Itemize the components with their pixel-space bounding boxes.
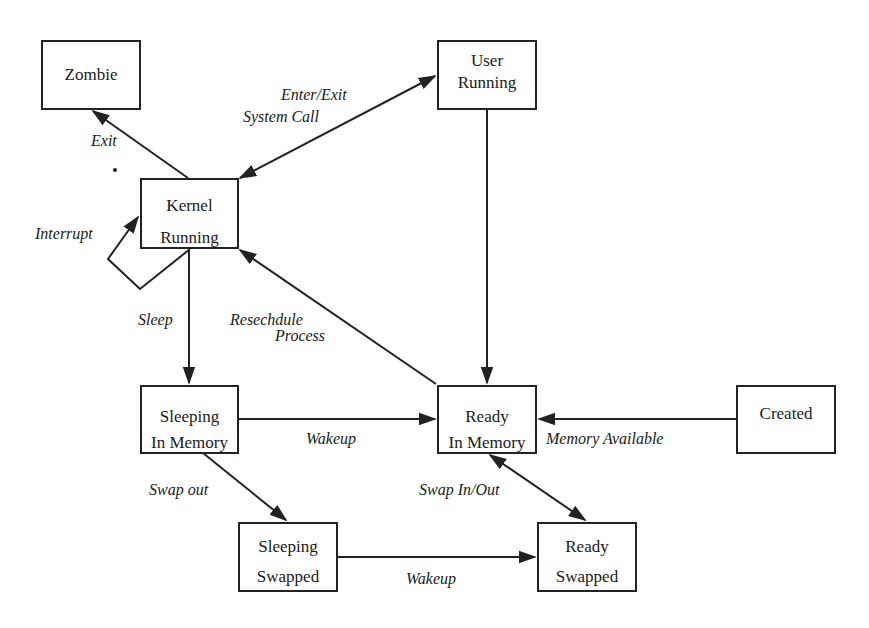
- state-zombie: Zombie: [41, 40, 141, 110]
- stray-dot: [113, 168, 117, 172]
- label-enter-exit: Enter/Exit: [281, 86, 347, 104]
- state-label-line2: Running: [160, 229, 219, 247]
- arrow-swap-out: [203, 453, 286, 520]
- state-label: Zombie: [65, 64, 118, 86]
- state-label: Created: [760, 403, 813, 425]
- state-kernel-running: Kernel Running: [140, 178, 239, 249]
- state-label-line2: In Memory: [449, 434, 526, 452]
- label-swap-in-out: Swap In/Out: [419, 481, 499, 499]
- label-sleep: Sleep: [138, 311, 173, 329]
- state-label-line2: Running: [458, 72, 517, 94]
- state-created: Created: [736, 385, 836, 454]
- state-label-line1: User: [471, 50, 503, 72]
- process-state-diagram: Zombie User Running Kernel Running Sleep…: [0, 0, 869, 628]
- state-label-line1: Ready: [565, 536, 608, 558]
- label-interrupt: Interrupt: [35, 225, 93, 243]
- label-memory-available: Memory Available: [546, 430, 663, 448]
- state-sleeping-in-memory: Sleeping In Memory: [140, 385, 239, 454]
- label-wakeup-swapped: Wakeup: [406, 570, 456, 588]
- state-label-line2: Swapped: [257, 566, 319, 588]
- state-label-line2: In Memory: [151, 434, 228, 452]
- label-process: Process: [275, 327, 325, 345]
- label-swap-out: Swap out: [149, 481, 208, 499]
- label-system-call: System Call: [243, 108, 319, 126]
- state-ready-in-memory: Ready In Memory: [437, 385, 537, 454]
- state-sleeping-swapped: Sleeping Swapped: [238, 522, 338, 592]
- state-label-line1: Kernel: [166, 195, 212, 217]
- label-wakeup-memory: Wakeup: [306, 430, 356, 448]
- state-label-line1: Ready: [465, 406, 508, 428]
- state-label-line2: Swapped: [556, 566, 618, 588]
- state-label-line1: Sleeping: [160, 406, 220, 428]
- label-exit: Exit: [91, 132, 117, 150]
- arrow-swap-in-out: [490, 455, 585, 520]
- state-user-running: User Running: [437, 40, 537, 110]
- state-label-line1: Sleeping: [258, 536, 318, 558]
- state-ready-swapped: Ready Swapped: [537, 522, 637, 592]
